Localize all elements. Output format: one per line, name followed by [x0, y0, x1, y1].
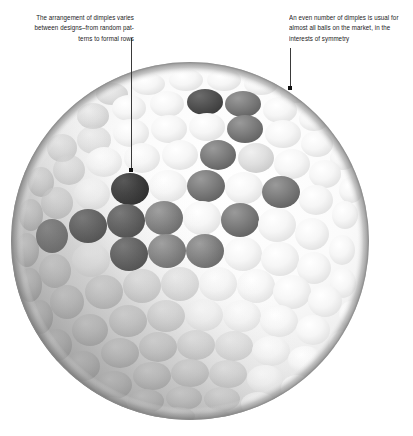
leader-dot-left [129, 168, 133, 172]
golf-ball-graphic [0, 0, 413, 436]
golf-ball-figure: The arrangement of dimples varies betwee… [0, 0, 413, 436]
leader-line-right [290, 48, 291, 88]
annotation-caption-left: The arrangement of dimples varies betwee… [16, 13, 134, 44]
golf-ball-illustration [0, 0, 413, 436]
annotation-caption-right: An even number of dimples is usual for a… [289, 13, 404, 44]
leader-line-left [131, 38, 132, 170]
leader-dot-right [288, 86, 292, 90]
ball-rim [11, 62, 369, 420]
